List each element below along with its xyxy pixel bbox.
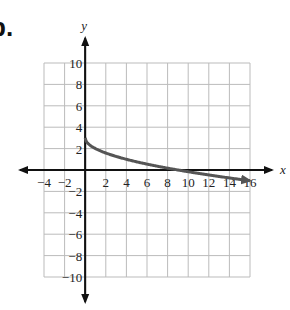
y-tick-label: −10	[62, 270, 82, 285]
x-axis-label: x	[279, 162, 286, 177]
y-tick-label: −6	[68, 227, 82, 242]
x-tick-label: 16	[244, 175, 258, 190]
axes: xy	[20, 18, 286, 302]
x-tick-label: 6	[144, 175, 151, 190]
x-tick-label: 2	[103, 175, 110, 190]
x-tick-label: 12	[202, 175, 215, 190]
x-tick-label: −4	[37, 175, 51, 190]
y-tick-label: −8	[68, 249, 82, 264]
y-tick-label: 4	[76, 120, 83, 135]
y-tick-label: 10	[69, 56, 82, 71]
y-tick-label: 8	[76, 77, 83, 92]
y-tick-label: 6	[76, 99, 83, 114]
y-tick-label: −2	[68, 184, 82, 199]
y-axis-label: y	[79, 18, 87, 33]
x-tick-label: 8	[164, 175, 171, 190]
y-tick-label: −4	[68, 206, 82, 221]
x-tick-label: 10	[182, 175, 195, 190]
x-tick-label: 4	[123, 175, 130, 190]
y-tick-label: 2	[76, 142, 83, 157]
function-graph: xy −4−2246810121416108642−2−4−6−8−10	[0, 0, 290, 310]
